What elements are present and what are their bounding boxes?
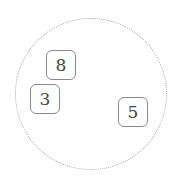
node-box: 8 [46, 50, 76, 80]
node-label: 3 [40, 89, 51, 109]
node-label: 5 [128, 102, 139, 122]
node-box: 3 [30, 84, 60, 114]
node-box: 5 [118, 97, 148, 127]
node-label: 8 [56, 55, 67, 75]
